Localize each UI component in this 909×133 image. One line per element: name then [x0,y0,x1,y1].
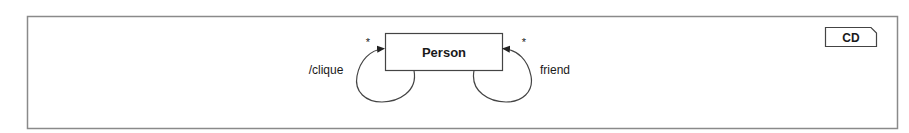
diagram-type-label: CD [842,31,860,45]
multiplicity-label: * [366,36,371,48]
class-name: Person [422,45,466,60]
class-person[interactable]: Person [386,34,503,71]
association-name-label: /clique [309,63,344,77]
diagram-canvas: CD Person * /clique * friend [0,0,909,133]
association-name-label: friend [540,63,570,77]
diagram-type-tag: CD [826,28,877,47]
multiplicity-label: * [522,36,527,48]
